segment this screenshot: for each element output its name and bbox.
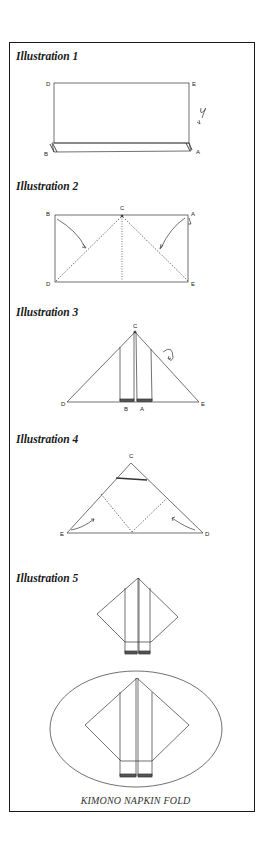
ill2-label-b: B <box>46 211 50 217</box>
ill4-label-c: C <box>129 453 134 459</box>
fold-diagrams: D E B A B C A D E C D E B A <box>0 0 271 843</box>
ill4-label-d: D <box>205 531 210 537</box>
illustration-5-diagram <box>97 578 178 654</box>
illustration-2-diagram <box>55 215 191 282</box>
ill1-label-d: D <box>46 81 51 87</box>
kimono-caption: KIMONO NAPKIN FOLD <box>0 795 271 806</box>
ill3-label-a: A <box>140 406 144 412</box>
illustration-4-diagram <box>67 463 203 533</box>
ill1-label-b: B <box>44 151 48 157</box>
illustration-3-diagram <box>67 331 199 402</box>
ill4-label-e: E <box>60 531 64 537</box>
illustration-1-diagram <box>50 83 206 152</box>
ill2-label-d: D <box>46 281 51 287</box>
plated-napkin-diagram <box>50 671 222 787</box>
ill3-label-b: B <box>124 406 128 412</box>
ill2-label-e: E <box>191 281 195 287</box>
ill2-label-a: A <box>191 211 195 217</box>
ill2-label-c: C <box>120 205 125 211</box>
ill1-label-e: E <box>192 81 196 87</box>
ill3-label-d: D <box>61 401 66 407</box>
ill3-label-e: E <box>201 401 205 407</box>
ill1-label-a: A <box>196 149 200 155</box>
ill3-label-c: C <box>133 323 138 329</box>
